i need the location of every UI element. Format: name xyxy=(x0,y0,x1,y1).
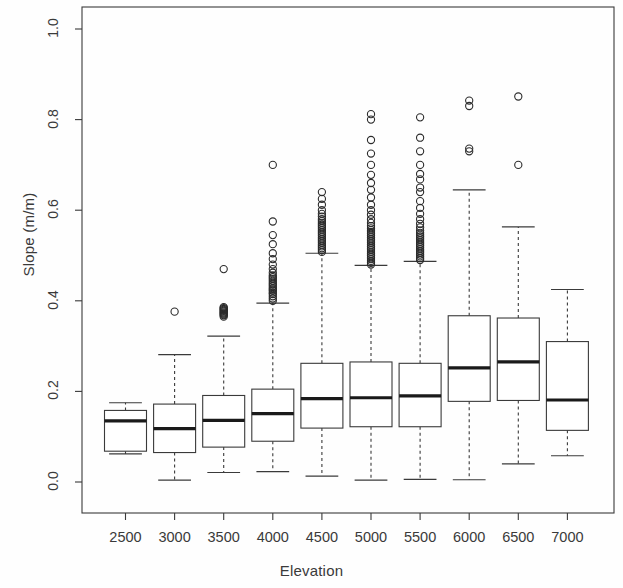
outlier-point xyxy=(417,184,424,191)
y-tick-label: 0.0 xyxy=(45,459,61,503)
box-iqr xyxy=(448,316,490,402)
y-tick-label: 0.8 xyxy=(45,97,61,141)
outlier-point xyxy=(367,186,374,193)
boxplot-group-6000 xyxy=(448,97,490,480)
y-tick-label: 0.4 xyxy=(45,278,61,322)
outlier-point xyxy=(417,170,424,177)
boxplot-canvas xyxy=(0,0,623,588)
outlier-point xyxy=(269,161,276,168)
outlier-point xyxy=(367,161,374,168)
x-tick-label: 7000 xyxy=(537,529,597,545)
y-axis-ticks xyxy=(75,29,82,482)
outlier-point xyxy=(269,218,276,225)
x-axis-ticks xyxy=(126,513,568,520)
boxplot-group-5500 xyxy=(399,114,441,480)
outlier-point xyxy=(417,161,424,168)
outlier-point xyxy=(367,171,374,178)
boxplot-group-4500 xyxy=(301,188,343,476)
outlier-point xyxy=(367,194,374,201)
x-axis-label: Elevation xyxy=(0,562,623,579)
y-tick-label: 0.2 xyxy=(45,368,61,412)
outlier-point xyxy=(367,136,374,143)
outlier-point xyxy=(220,265,227,272)
outlier-point xyxy=(515,93,522,100)
outlier-point xyxy=(171,308,178,315)
boxplot-group-2500 xyxy=(105,403,147,454)
boxplot-group-3000 xyxy=(154,308,196,480)
boxplot-group-5000 xyxy=(350,111,392,481)
outlier-point xyxy=(367,150,374,157)
box-series xyxy=(105,93,589,480)
boxplot-group-4000 xyxy=(252,161,294,471)
outlier-point xyxy=(367,111,374,118)
outlier-point xyxy=(466,97,473,104)
outlier-point xyxy=(367,201,374,208)
box-iqr xyxy=(497,318,539,400)
outlier-point xyxy=(367,179,374,186)
outlier-point xyxy=(417,134,424,141)
outlier-point xyxy=(318,188,325,195)
box-iqr xyxy=(546,342,588,431)
outlier-point xyxy=(417,114,424,121)
y-tick-label: 0.6 xyxy=(45,187,61,231)
y-tick-label: 1.0 xyxy=(45,6,61,50)
boxplot-group-6500 xyxy=(497,93,539,464)
outlier-point xyxy=(417,148,424,155)
outlier-point xyxy=(269,232,276,239)
outlier-point xyxy=(515,161,522,168)
box-iqr xyxy=(350,362,392,427)
box-iqr xyxy=(105,410,147,451)
boxplot-figure: Slope (m/m) Elevation 0.00.20.40.60.81.0… xyxy=(0,0,623,588)
boxplot-group-3500 xyxy=(203,265,245,472)
outlier-point xyxy=(269,241,276,248)
outlier-point xyxy=(417,198,424,205)
boxplot-group-7000 xyxy=(546,289,588,455)
y-axis-label: Slope (m/m) xyxy=(20,155,37,315)
box-iqr xyxy=(301,363,343,428)
